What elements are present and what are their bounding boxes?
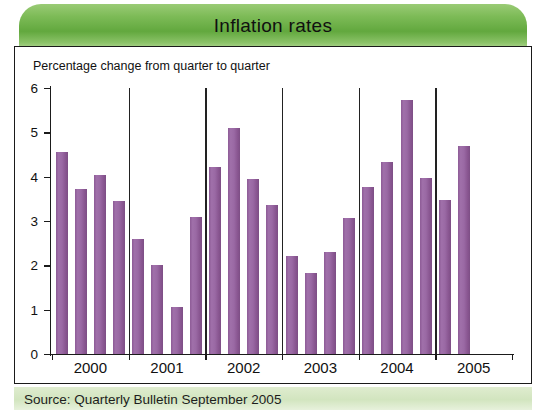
x-tick-mark bbox=[282, 354, 283, 360]
year-label: 2003 bbox=[304, 359, 337, 376]
bar bbox=[247, 179, 259, 354]
bar bbox=[439, 200, 451, 354]
bar bbox=[324, 252, 336, 354]
x-tick-mark bbox=[129, 354, 130, 360]
year-separator bbox=[129, 88, 130, 354]
x-tick-mark bbox=[205, 354, 206, 360]
bar bbox=[151, 265, 163, 354]
y-tick-mark bbox=[44, 221, 50, 222]
year-label: 2005 bbox=[457, 359, 490, 376]
y-tick-mark bbox=[44, 265, 50, 266]
bar bbox=[171, 307, 183, 354]
page-title: Inflation rates bbox=[19, 4, 527, 48]
year-separator bbox=[205, 88, 206, 354]
x-tick-mark bbox=[435, 354, 436, 360]
year-label: 2002 bbox=[227, 359, 260, 376]
year-label: 2004 bbox=[380, 359, 413, 376]
y-axis-line bbox=[50, 86, 51, 356]
year-separator bbox=[435, 88, 436, 354]
bar bbox=[113, 201, 125, 354]
y-tick-label: 0 bbox=[22, 347, 38, 362]
y-tick-mark bbox=[44, 88, 50, 89]
year-separator bbox=[282, 88, 283, 354]
y-tick-mark bbox=[44, 310, 50, 311]
bar bbox=[286, 256, 298, 354]
bar bbox=[305, 273, 317, 354]
year-label: 2001 bbox=[150, 359, 183, 376]
year-label: 2000 bbox=[74, 359, 107, 376]
source-text: Source: Quarterly Bulletin September 200… bbox=[24, 392, 281, 407]
y-tick-label: 4 bbox=[22, 169, 38, 184]
bar bbox=[94, 175, 106, 354]
y-tick-mark bbox=[44, 177, 50, 178]
bar bbox=[75, 189, 87, 354]
x-tick-mark bbox=[512, 354, 513, 360]
y-tick-label: 3 bbox=[22, 214, 38, 229]
bar bbox=[458, 146, 470, 354]
bar bbox=[362, 187, 374, 354]
bar bbox=[343, 218, 355, 354]
bar bbox=[266, 205, 278, 354]
bar bbox=[401, 100, 413, 354]
x-tick-mark bbox=[52, 354, 53, 360]
bar bbox=[56, 152, 68, 354]
y-tick-label: 1 bbox=[22, 302, 38, 317]
bar bbox=[228, 128, 240, 354]
bar bbox=[132, 239, 144, 354]
year-separator bbox=[359, 88, 360, 354]
bar bbox=[381, 162, 393, 354]
inflation-rates-figure: Inflation rates Percentage change from q… bbox=[0, 0, 546, 410]
y-tick-label: 6 bbox=[22, 81, 38, 96]
bar bbox=[190, 217, 202, 354]
x-tick-mark bbox=[359, 354, 360, 360]
y-tick-mark bbox=[44, 132, 50, 133]
y-tick-label: 5 bbox=[22, 125, 38, 140]
bar bbox=[420, 178, 432, 354]
bar bbox=[209, 167, 221, 354]
chart-subtitle: Percentage change from quarter to quarte… bbox=[33, 59, 270, 73]
y-tick-mark bbox=[44, 354, 50, 355]
y-tick-label: 2 bbox=[22, 258, 38, 273]
